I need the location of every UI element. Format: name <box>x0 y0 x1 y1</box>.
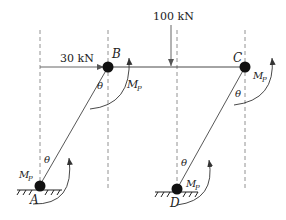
node-label-d: D <box>169 196 180 210</box>
mp-label-a: M P <box>18 169 33 183</box>
theta-label-d: θ <box>181 157 187 168</box>
node-b <box>103 62 114 73</box>
load-label-100kn: 100 kN <box>153 10 194 23</box>
column-dc <box>177 67 245 189</box>
theta-label-a: θ <box>44 154 50 165</box>
theta-label-b: θ <box>97 80 103 91</box>
theta-label-c: θ <box>235 88 241 99</box>
mp-label-b: M P <box>126 78 142 93</box>
svg-text:P: P <box>136 85 142 93</box>
node-label-a: A <box>29 193 39 207</box>
node-label-c: C <box>233 51 242 65</box>
load-label-30kn: 30 kN <box>60 52 94 65</box>
svg-text:P: P <box>261 76 267 84</box>
mp-label-d: M P <box>185 178 200 192</box>
svg-text:P: P <box>27 175 33 183</box>
node-d <box>172 184 183 195</box>
frame-mechanism-diagram: 30 kN 100 kN B C A D θ θ θ θ M P M P M P… <box>0 0 286 220</box>
mp-label-c: M P <box>252 70 267 84</box>
svg-text:P: P <box>194 184 200 192</box>
node-a <box>35 181 46 192</box>
node-label-b: B <box>111 47 121 61</box>
